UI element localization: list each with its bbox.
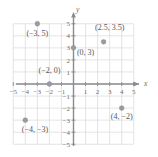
y-tick-label: 1	[67, 69, 71, 77]
y-tick-label: −4	[63, 129, 71, 137]
x-tick-label: −3	[34, 88, 42, 96]
data-point-label: (−3, 5)	[26, 29, 48, 38]
coordinate-plane-figure: −5−4−3−2−11234554321−1−2−3−4−5 x y (−3, …	[0, 0, 158, 157]
x-tick-label: 4	[120, 88, 124, 96]
x-tick-label: 2	[96, 88, 100, 96]
x-tick-label: −4	[22, 88, 30, 96]
y-tick-label: −5	[63, 141, 71, 149]
data-point-marker	[23, 118, 28, 123]
y-tick-label: 4	[67, 32, 71, 40]
y-tick-label: 2	[67, 57, 71, 65]
y-tick-label: 5	[67, 20, 71, 28]
x-tick-label: 1	[84, 88, 88, 96]
data-point-marker	[119, 106, 124, 111]
data-point-label: (0, 3)	[77, 48, 95, 57]
x-tick-label: −5	[10, 88, 18, 96]
y-tick-label: 3	[67, 44, 71, 52]
y-tick-label: −1	[63, 93, 71, 101]
data-point-marker	[71, 45, 76, 50]
coordinate-plane-svg: −5−4−3−2−11234554321−1−2−3−4−5 x y (−3, …	[0, 0, 158, 157]
data-point-marker	[47, 82, 52, 87]
data-point-labels: (−3, 5)(2.5, 3.5)(0, 3)(−2, 0)(−4, −3)(4…	[22, 23, 133, 134]
data-point-label: (−4, −3)	[22, 125, 49, 134]
data-point-label: (2.5, 3.5)	[95, 23, 125, 32]
x-tick-label: 3	[108, 88, 112, 96]
data-point-marker	[35, 21, 40, 26]
y-tick-label: −2	[63, 105, 71, 113]
x-tick-label: −2	[46, 88, 54, 96]
x-tick-label: 5	[132, 88, 136, 96]
y-axis-label: y	[75, 5, 80, 14]
x-axis-arrow-icon	[134, 82, 140, 87]
data-point-marker	[101, 39, 106, 44]
y-tick-label: −3	[63, 117, 71, 125]
x-axis-label: x	[143, 79, 148, 88]
data-point-label: (−2, 0)	[38, 66, 60, 75]
data-point-label: (4, −2)	[111, 112, 133, 121]
